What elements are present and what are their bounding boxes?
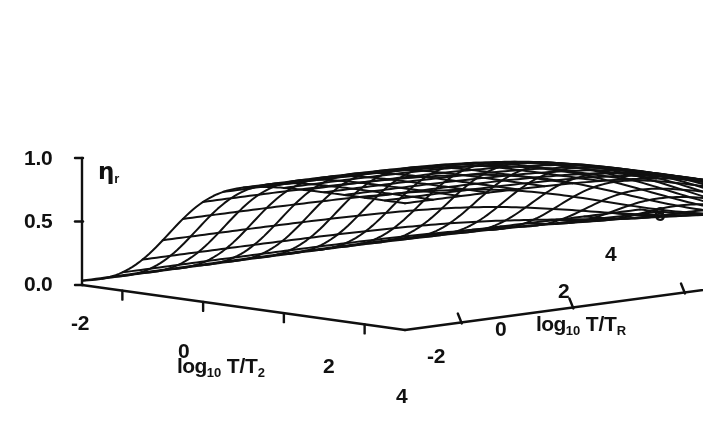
x-tick-label-neg2: -2	[71, 312, 89, 333]
x-tick-label-4: 4	[396, 385, 407, 406]
x-axis-title: log10 T/T2	[177, 355, 265, 379]
z-tick-label-0.5: 0.5	[24, 210, 53, 231]
z-tick-label-1.0: 1.0	[24, 147, 53, 168]
y-tick-label-2: 2	[558, 280, 569, 301]
figure-root: 1.0 0.5 0.0 ηr -2 0 2 4 log10 T/T2 -2 0 …	[0, 0, 703, 429]
z-tick-label-0.0: 0.0	[24, 273, 53, 294]
x-tick-label-2: 2	[323, 355, 334, 376]
y-axis-title-subscript: R	[617, 323, 626, 338]
y-tick-label-neg2: -2	[427, 345, 445, 366]
x-axis-title-lead: log	[177, 354, 207, 377]
y-axis-title-base10: 10	[566, 323, 580, 338]
x-axis-title-base10: 10	[207, 365, 221, 380]
y-tick-label-6: 6	[654, 203, 665, 224]
y-axis-title-rest: T/T	[580, 312, 617, 335]
y-tick-label-4: 4	[605, 243, 616, 264]
y-axis-title: log10 T/TR	[536, 313, 626, 337]
z-axis-title: ηr	[98, 160, 119, 185]
y-tick-label-0: 0	[495, 318, 506, 339]
surface-plot-canvas	[0, 0, 703, 429]
x-axis-title-rest: T/T	[221, 354, 258, 377]
x-axis-title-subscript: 2	[258, 365, 265, 380]
y-axis-title-lead: log	[536, 312, 566, 335]
eta-subscript: r	[114, 171, 119, 186]
eta-symbol: η	[98, 158, 114, 184]
